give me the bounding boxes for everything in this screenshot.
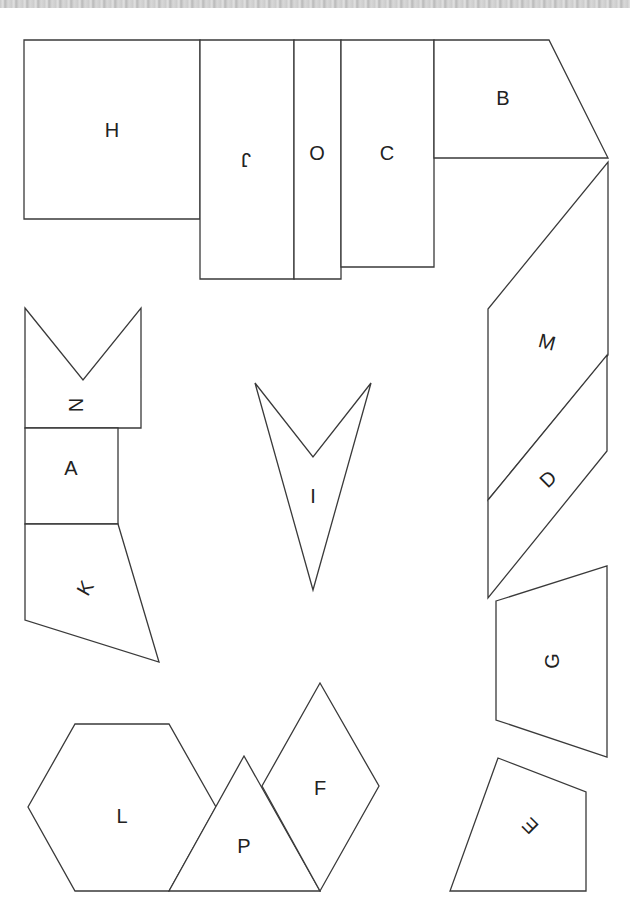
piece-n: N: [25, 308, 141, 428]
piece-e-outline: [450, 758, 586, 891]
piece-i-label: I: [310, 485, 316, 507]
piece-p-label: P: [237, 835, 250, 857]
piece-e: E: [450, 758, 586, 891]
piece-i: I: [255, 383, 371, 590]
piece-l-label: L: [116, 805, 127, 827]
piece-c: C: [341, 40, 434, 267]
piece-o: O: [294, 40, 341, 279]
piece-b: B: [434, 40, 608, 158]
piece-n-label: N: [65, 398, 87, 412]
piece-g-label: G: [541, 653, 563, 669]
piece-a-label: A: [64, 457, 78, 479]
piece-j-label: J: [241, 149, 251, 171]
piece-g: G: [496, 566, 607, 757]
piece-j: J: [200, 40, 294, 279]
piece-k: K: [25, 524, 159, 662]
puzzle-pieces-diagram: HJOCBMDNAKIGELPF: [0, 0, 630, 901]
piece-c-label: C: [380, 142, 394, 164]
piece-h-label: H: [105, 119, 119, 141]
piece-b-label: B: [496, 87, 509, 109]
piece-o-label: O: [309, 142, 325, 164]
piece-a: A: [25, 428, 118, 524]
piece-b-outline: [434, 40, 608, 158]
piece-h: H: [24, 40, 200, 219]
piece-f-label: F: [314, 777, 326, 799]
